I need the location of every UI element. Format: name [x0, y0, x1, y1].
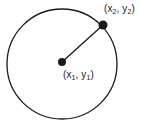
outer-label-sub1: 2 [113, 8, 117, 15]
outer-label-suffix: ) [131, 3, 134, 14]
center-label-middle: , y [76, 69, 87, 80]
circumference-point-label: (x2, y2) [104, 3, 135, 14]
center-label-suffix: ) [90, 69, 93, 80]
radius-line-segment [62, 25, 103, 62]
circle-diagram: (x2, y2) (x1, y1) [0, 0, 143, 131]
outer-label-sub2: 2 [127, 8, 131, 15]
diagram-canvas [0, 0, 143, 131]
center-label-prefix: (x [63, 69, 72, 80]
center-point-dot [58, 58, 66, 66]
center-point-label: (x1, y1) [63, 69, 94, 80]
center-label-sub2: 1 [86, 74, 90, 81]
outer-label-middle: , y [117, 3, 128, 14]
center-label-sub1: 1 [72, 74, 76, 81]
circumference-point-dot [99, 21, 108, 30]
outer-label-prefix: (x [104, 3, 113, 14]
